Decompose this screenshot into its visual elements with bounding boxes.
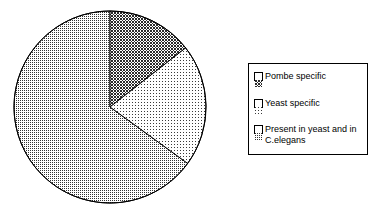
- legend-swatch-medium-gray-dots-icon: [254, 125, 263, 134]
- swatch-pattern-light-icon: [255, 107, 262, 114]
- legend-label: Pombe specific: [265, 71, 326, 82]
- legend-label: Yeast specific: [265, 98, 320, 109]
- swatch-pattern-medium-icon: [255, 133, 262, 140]
- legend-swatch-dense-dark-checker-icon: [254, 72, 263, 81]
- legend-item-pombe-specific[interactable]: Pombe specific: [254, 71, 366, 82]
- legend-item-present-in-yeast-and-in-celegans[interactable]: Present in yeast and in C.elegans: [254, 124, 366, 146]
- chart-legend: Pombe specific Yeast specific Present in…: [248, 63, 368, 155]
- pie-chart-figure: Pombe specific Yeast specific Present in…: [0, 0, 385, 215]
- legend-label: Present in yeast and in C.elegans: [265, 124, 357, 146]
- pie-chart-svg: [0, 0, 230, 215]
- legend-item-yeast-specific[interactable]: Yeast specific: [254, 98, 366, 109]
- pie-chart: [0, 0, 230, 215]
- legend-swatch-sparse-light-dots-icon: [254, 99, 263, 108]
- swatch-pattern-dark-icon: [255, 80, 262, 87]
